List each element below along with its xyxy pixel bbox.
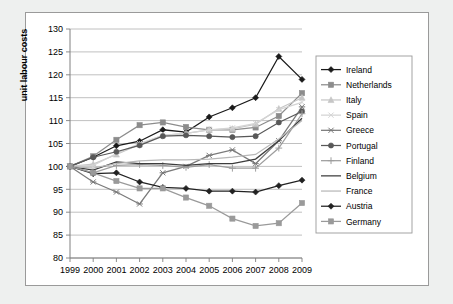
svg-text:2006: 2006 bbox=[222, 265, 242, 275]
svg-text:105: 105 bbox=[48, 139, 63, 149]
legend-label: Italy bbox=[346, 95, 362, 105]
svg-text:90: 90 bbox=[53, 207, 63, 217]
svg-text:130: 130 bbox=[48, 24, 63, 34]
svg-text:85: 85 bbox=[53, 230, 63, 240]
legend-label: Belgium bbox=[346, 171, 377, 181]
chart-legend: IrelandNetherlandsItalySpainGreecePortug… bbox=[316, 56, 412, 233]
legend-label: France bbox=[346, 186, 373, 196]
legend-label: Finland bbox=[346, 156, 374, 166]
series-ireland bbox=[67, 53, 305, 169]
chart-panel: unit labour costs 8085909510010511011512… bbox=[25, 12, 429, 286]
svg-text:100: 100 bbox=[48, 162, 63, 172]
svg-text:2007: 2007 bbox=[246, 265, 266, 275]
svg-text:2008: 2008 bbox=[269, 265, 289, 275]
line-chart: 8085909510010511011512012513019992000200… bbox=[26, 13, 430, 287]
legend-label: Germany bbox=[346, 217, 382, 227]
svg-text:125: 125 bbox=[48, 47, 63, 57]
svg-text:1999: 1999 bbox=[60, 265, 80, 275]
svg-text:2001: 2001 bbox=[106, 265, 126, 275]
svg-text:115: 115 bbox=[49, 93, 63, 103]
legend-label: Greece bbox=[346, 125, 374, 135]
legend-label: Austria bbox=[346, 201, 373, 211]
svg-text:2003: 2003 bbox=[153, 265, 173, 275]
series-italy bbox=[67, 95, 305, 170]
svg-text:80: 80 bbox=[53, 253, 63, 263]
svg-text:110: 110 bbox=[49, 116, 63, 126]
svg-text:2009: 2009 bbox=[292, 265, 312, 275]
svg-text:2002: 2002 bbox=[130, 265, 150, 275]
svg-text:2004: 2004 bbox=[176, 265, 196, 275]
svg-text:120: 120 bbox=[48, 70, 63, 80]
legend-label: Portugal bbox=[346, 141, 378, 151]
svg-text:2000: 2000 bbox=[83, 265, 103, 275]
svg-text:95: 95 bbox=[53, 185, 63, 195]
legend-label: Ireland bbox=[346, 65, 372, 75]
legend-label: Spain bbox=[346, 110, 368, 120]
legend-label: Netherlands bbox=[346, 80, 392, 90]
svg-text:2005: 2005 bbox=[199, 265, 219, 275]
